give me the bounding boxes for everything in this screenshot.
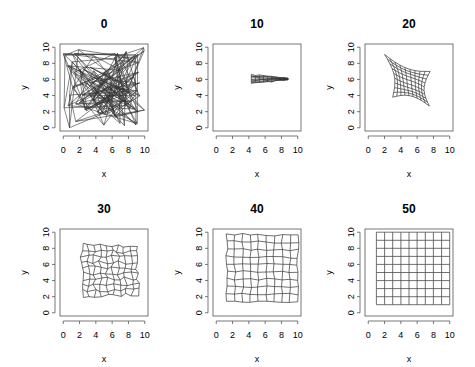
- y-tick-label: 8: [194, 61, 204, 66]
- x-tick-label: 6: [263, 330, 268, 340]
- y-axis-label: y: [324, 85, 334, 90]
- x-axis-label: x: [102, 169, 107, 179]
- y-tick-label: 2: [194, 109, 204, 114]
- x-tick-label: 10: [293, 145, 303, 155]
- x-tick-label: 8: [279, 330, 284, 340]
- lattice-lines: [251, 74, 288, 83]
- x-tick-label: 2: [382, 145, 387, 155]
- y-tick-label: 10: [346, 42, 356, 52]
- y-axis-label: y: [324, 270, 334, 275]
- y-tick-label: 2: [346, 109, 356, 114]
- panel-title: 50: [402, 202, 416, 216]
- x-tick-label: 4: [93, 330, 98, 340]
- y-tick-label: 8: [346, 61, 356, 66]
- y-tick-label: 0: [41, 125, 51, 130]
- y-tick-label: 0: [346, 125, 356, 130]
- y-tick-label: 2: [41, 294, 51, 299]
- y-tick-label: 0: [346, 310, 356, 315]
- y-tick-label: 6: [346, 262, 356, 267]
- plot-box: [213, 44, 301, 131]
- y-tick-label: 2: [194, 294, 204, 299]
- x-axis-label: x: [255, 354, 260, 364]
- panel-title: 20: [402, 17, 416, 31]
- y-axis-label: y: [172, 85, 182, 90]
- lattice-lines: [226, 234, 299, 303]
- x-tick-label: 8: [279, 145, 284, 155]
- x-tick-label: 0: [214, 145, 219, 155]
- x-tick-label: 10: [293, 330, 303, 340]
- x-tick-label: 2: [77, 145, 82, 155]
- x-tick-label: 10: [140, 145, 150, 155]
- panel-10: 1002468100246810xy: [172, 17, 303, 179]
- figure: 002468100246810xy1002468100246810xy20024…: [0, 0, 475, 367]
- y-tick-label: 0: [194, 125, 204, 130]
- x-tick-label: 0: [214, 330, 219, 340]
- panel-title: 40: [250, 202, 264, 216]
- x-tick-label: 6: [110, 145, 115, 155]
- y-tick-label: 2: [41, 109, 51, 114]
- x-tick-label: 4: [398, 330, 403, 340]
- y-tick-label: 2: [346, 294, 356, 299]
- y-axis-label: y: [172, 270, 182, 275]
- y-tick-label: 8: [346, 246, 356, 251]
- x-tick-label: 6: [415, 330, 420, 340]
- y-tick-label: 0: [194, 310, 204, 315]
- x-tick-label: 0: [61, 330, 66, 340]
- y-tick-label: 6: [41, 262, 51, 267]
- panel-title: 0: [101, 17, 108, 31]
- x-axis-label: x: [255, 169, 260, 179]
- y-tick-label: 6: [194, 77, 204, 82]
- x-tick-label: 10: [445, 145, 455, 155]
- y-tick-label: 4: [41, 93, 51, 98]
- x-tick-label: 4: [246, 145, 251, 155]
- panel-30: 3002468100246810xy: [19, 202, 150, 364]
- x-tick-label: 6: [263, 145, 268, 155]
- y-tick-label: 10: [346, 227, 356, 237]
- y-tick-label: 4: [194, 278, 204, 283]
- y-tick-label: 8: [41, 246, 51, 251]
- x-tick-label: 10: [445, 330, 455, 340]
- y-tick-label: 8: [41, 61, 51, 66]
- x-tick-label: 10: [140, 330, 150, 340]
- y-tick-label: 4: [194, 93, 204, 98]
- y-axis-label: y: [19, 85, 29, 90]
- y-tick-label: 10: [194, 227, 204, 237]
- y-tick-label: 10: [41, 227, 51, 237]
- panel-0: 002468100246810xy: [19, 17, 150, 179]
- x-tick-label: 8: [431, 145, 436, 155]
- x-tick-label: 2: [230, 145, 235, 155]
- x-tick-label: 4: [246, 330, 251, 340]
- x-axis-label: x: [102, 354, 107, 364]
- x-tick-label: 2: [230, 330, 235, 340]
- y-tick-label: 6: [41, 77, 51, 82]
- y-tick-label: 4: [41, 278, 51, 283]
- x-tick-label: 0: [366, 330, 371, 340]
- x-tick-label: 6: [415, 145, 420, 155]
- lattice-lines: [80, 243, 139, 297]
- lattice-lines: [376, 232, 449, 305]
- lattice-lines: [385, 55, 431, 107]
- x-tick-label: 4: [398, 145, 403, 155]
- panel-title: 30: [97, 202, 111, 216]
- x-tick-label: 0: [61, 145, 66, 155]
- x-axis-label: x: [407, 169, 412, 179]
- x-tick-label: 8: [126, 330, 131, 340]
- panel-title: 10: [250, 17, 264, 31]
- y-tick-label: 8: [194, 246, 204, 251]
- x-axis-label: x: [407, 354, 412, 364]
- x-tick-label: 0: [366, 145, 371, 155]
- panel-20: 2002468100246810xy: [324, 17, 455, 179]
- x-tick-label: 2: [382, 330, 387, 340]
- panel-40: 4002468100246810xy: [172, 202, 303, 364]
- y-tick-label: 6: [194, 262, 204, 267]
- y-tick-label: 10: [41, 42, 51, 52]
- x-tick-label: 6: [110, 330, 115, 340]
- y-tick-label: 10: [194, 42, 204, 52]
- x-tick-label: 2: [77, 330, 82, 340]
- y-axis-label: y: [19, 270, 29, 275]
- y-tick-label: 6: [346, 77, 356, 82]
- y-tick-label: 0: [41, 310, 51, 315]
- x-tick-label: 8: [431, 330, 436, 340]
- lattice-lines: [63, 48, 144, 128]
- x-tick-label: 8: [126, 145, 131, 155]
